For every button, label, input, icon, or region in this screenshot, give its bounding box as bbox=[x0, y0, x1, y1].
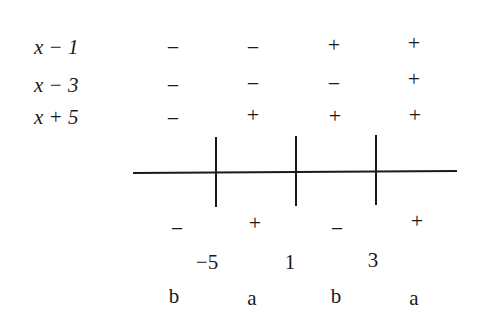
sign-cell: − bbox=[319, 73, 349, 95]
critical-point-tick bbox=[375, 135, 377, 205]
sign-cell: + bbox=[399, 32, 429, 54]
critical-point-value: −5 bbox=[187, 252, 227, 273]
critical-point-tick bbox=[215, 137, 217, 207]
product-sign: − bbox=[162, 218, 192, 240]
critical-point-value: 1 bbox=[270, 252, 310, 273]
interval-label: a bbox=[232, 288, 272, 309]
product-sign: − bbox=[322, 218, 352, 240]
sign-cell: − bbox=[238, 37, 268, 59]
sign-cell: + bbox=[400, 104, 430, 126]
critical-point-tick bbox=[295, 136, 297, 206]
sign-cell: + bbox=[320, 105, 350, 127]
sign-cell: − bbox=[158, 108, 188, 130]
critical-point-value: 3 bbox=[353, 250, 393, 271]
factor-label-x-plus-5: x + 5 bbox=[34, 105, 79, 130]
sign-cell: + bbox=[238, 104, 268, 126]
product-sign: + bbox=[240, 212, 270, 234]
product-sign: + bbox=[402, 210, 432, 232]
sign-cell: − bbox=[238, 73, 268, 95]
sign-cell: − bbox=[158, 37, 188, 59]
interval-label: b bbox=[154, 286, 194, 307]
sign-cell: − bbox=[158, 75, 188, 97]
sign-cell: + bbox=[319, 34, 349, 56]
interval-label: a bbox=[394, 288, 434, 309]
factor-label-x-minus-1: x − 1 bbox=[34, 35, 79, 60]
factor-label-x-minus-3: x − 3 bbox=[34, 73, 79, 98]
interval-label: b bbox=[316, 286, 356, 307]
sign-cell: + bbox=[399, 68, 429, 90]
